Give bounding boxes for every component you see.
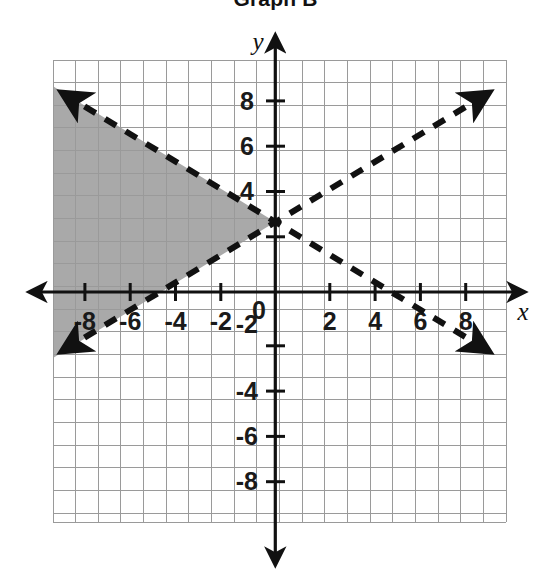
- y-tick-label: -8: [236, 467, 258, 495]
- x-tick-label: 2: [323, 307, 337, 335]
- coordinate-plane: -8 -6 -4 -2 0 2 4 6 8 8 6 4 -2 -4 -6 -8 …: [0, 0, 551, 580]
- page-title: Graph B: [0, 0, 551, 11]
- x-axis-label: x: [516, 298, 528, 325]
- y-tick-label: 4: [240, 177, 254, 205]
- y-tick-label: 8: [240, 87, 254, 115]
- y-tick-label: -2: [236, 310, 258, 338]
- x-tick-label: -2: [210, 307, 232, 335]
- graph-figure: Graph B: [0, 0, 551, 580]
- y-tick-label: -6: [236, 422, 258, 450]
- y-tick-label: -4: [236, 377, 258, 405]
- y-tick-label: 6: [240, 132, 254, 160]
- x-tick-label: 4: [368, 307, 382, 335]
- x-tick-label: -4: [164, 307, 186, 335]
- y-axis-label: y: [249, 28, 264, 55]
